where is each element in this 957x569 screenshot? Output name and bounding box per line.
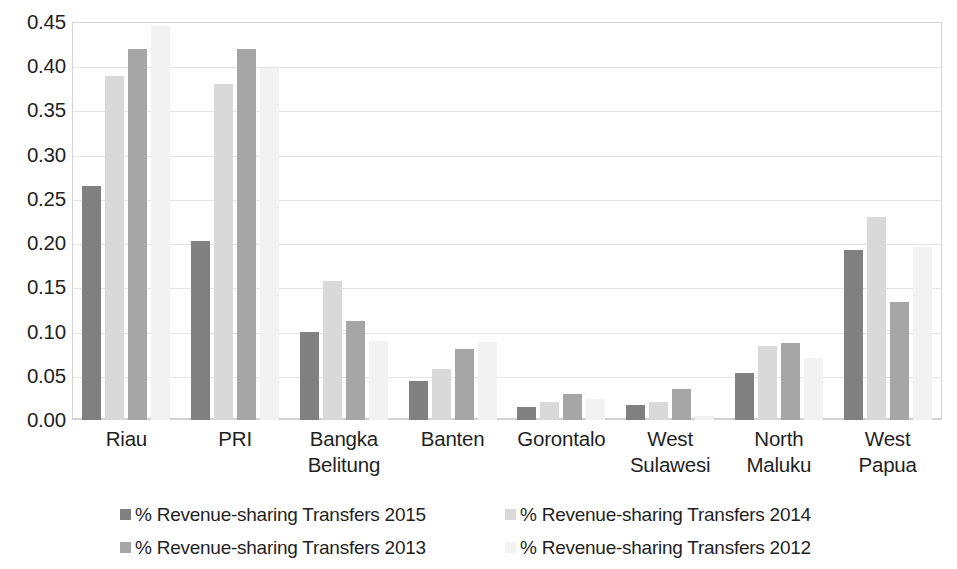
bar-group xyxy=(725,22,834,420)
bar xyxy=(890,302,909,421)
bar xyxy=(151,26,170,420)
bar xyxy=(432,369,451,420)
bar xyxy=(409,381,428,420)
y-axis-tick-label: 0.45 xyxy=(4,12,66,33)
bar xyxy=(369,341,388,420)
bar-group xyxy=(507,22,616,420)
x-axis-label-line: Maluku xyxy=(725,452,834,478)
bar xyxy=(300,332,319,420)
y-axis-tick-label: 0.35 xyxy=(4,100,66,121)
bar-groups xyxy=(72,22,942,420)
x-axis-label: Riau xyxy=(72,426,181,486)
bar xyxy=(913,247,932,420)
x-axis-label: Gorontalo xyxy=(507,426,616,486)
bar xyxy=(260,68,279,420)
x-axis-label: BangkaBelitung xyxy=(290,426,399,486)
y-axis-tick-label: 0.40 xyxy=(4,56,66,77)
bar xyxy=(82,186,101,420)
x-axis-label-line: West xyxy=(616,426,725,452)
x-axis-label: Banten xyxy=(398,426,507,486)
legend-swatch-icon xyxy=(120,542,131,553)
legend-label: % Revenue-sharing Transfers 2014 xyxy=(520,504,811,526)
bar xyxy=(649,402,668,420)
bar xyxy=(563,394,582,420)
legend-item[interactable]: % Revenue-sharing Transfers 2015 xyxy=(120,504,505,526)
x-axis-label-line: Belitung xyxy=(290,452,399,478)
y-axis-tick-label: 0.25 xyxy=(4,189,66,210)
legend-swatch-icon xyxy=(505,542,516,553)
bar-group xyxy=(72,22,181,420)
bar xyxy=(191,241,210,420)
bar-group xyxy=(398,22,507,420)
y-axis-tick-label: 0.10 xyxy=(4,321,66,342)
legend-label: % Revenue-sharing Transfers 2013 xyxy=(135,537,426,559)
bar xyxy=(455,349,474,420)
bar xyxy=(695,416,714,420)
bar xyxy=(237,49,256,420)
legend-item[interactable]: % Revenue-sharing Transfers 2012 xyxy=(505,537,860,559)
bar xyxy=(735,373,754,420)
legend-swatch-icon xyxy=(505,509,516,520)
bar xyxy=(540,402,559,420)
chart-legend: % Revenue-sharing Transfers 2015% Revenu… xyxy=(120,498,860,564)
y-axis-tick-label: 0.15 xyxy=(4,277,66,298)
x-axis-label-line: Papua xyxy=(833,452,942,478)
x-axis-label-line: Sulawesi xyxy=(616,452,725,478)
x-axis-label: WestPapua xyxy=(833,426,942,486)
x-axis-label-line: North xyxy=(725,426,834,452)
bar xyxy=(214,84,233,420)
bar-chart: 0.450.400.350.300.250.200.150.100.050.00… xyxy=(0,0,957,569)
bar xyxy=(781,343,800,420)
bar xyxy=(586,399,605,420)
bar xyxy=(844,250,863,420)
y-axis-tick-label: 0.00 xyxy=(4,410,66,431)
bar xyxy=(626,405,645,420)
bar xyxy=(346,321,365,420)
x-axis-label-line: Gorontalo xyxy=(507,426,616,452)
x-axis-label: WestSulawesi xyxy=(616,426,725,486)
x-axis-label-line: Riau xyxy=(72,426,181,452)
x-axis-label-line: PRI xyxy=(181,426,290,452)
bar-group xyxy=(833,22,942,420)
bar-group xyxy=(616,22,725,420)
bar xyxy=(672,389,691,420)
bar xyxy=(758,346,777,420)
bar-group xyxy=(290,22,399,420)
legend-swatch-icon xyxy=(120,509,131,520)
y-axis: 0.450.400.350.300.250.200.150.100.050.00 xyxy=(0,22,66,420)
bar xyxy=(517,407,536,420)
y-axis-tick-label: 0.30 xyxy=(4,144,66,165)
x-axis-label-line: Bangka xyxy=(290,426,399,452)
bar xyxy=(478,342,497,420)
y-axis-tick-label: 0.05 xyxy=(4,366,66,387)
bar xyxy=(804,358,823,420)
legend-label: % Revenue-sharing Transfers 2012 xyxy=(520,537,811,559)
legend-item[interactable]: % Revenue-sharing Transfers 2013 xyxy=(120,537,505,559)
x-axis-label-line: West xyxy=(833,426,942,452)
x-axis-label-line: Banten xyxy=(398,426,507,452)
bar xyxy=(128,49,147,420)
legend-label: % Revenue-sharing Transfers 2015 xyxy=(135,504,426,526)
bar xyxy=(105,76,124,420)
x-axis-label: NorthMaluku xyxy=(725,426,834,486)
x-axis-label: PRI xyxy=(181,426,290,486)
x-axis-category-labels: RiauPRIBangkaBelitungBantenGorontaloWest… xyxy=(72,426,942,486)
legend-item[interactable]: % Revenue-sharing Transfers 2014 xyxy=(505,504,860,526)
bar xyxy=(323,281,342,420)
y-axis-tick-label: 0.20 xyxy=(4,233,66,254)
bar-group xyxy=(181,22,290,420)
bar xyxy=(867,217,886,420)
